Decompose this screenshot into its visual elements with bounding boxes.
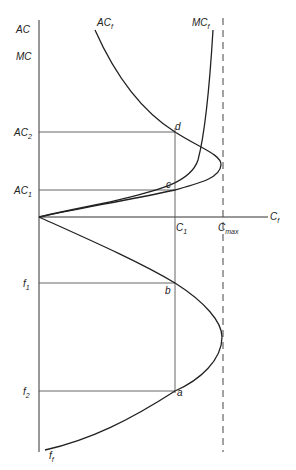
point-b-label: b	[165, 285, 171, 296]
y-axis-label-ac: AC	[15, 24, 31, 35]
f2-label: f2	[23, 386, 30, 399]
flow-curve-label: ff	[49, 450, 55, 463]
x-axis-label: Cf	[270, 211, 280, 224]
point-d-label: d	[175, 121, 181, 132]
ac1-label: AC1	[13, 185, 32, 198]
ac-curve-label: ACf	[96, 17, 114, 30]
y-axis-label-mc: MC	[16, 51, 32, 62]
point-c-label: c	[166, 179, 171, 190]
flow-curve	[39, 217, 222, 450]
f1-label: f1	[23, 278, 30, 291]
point-a-label: a	[177, 387, 183, 398]
cost-flow-diagram: AC MC Cf ACf MCf ff AC2 AC1 f1 f2 C1 Cma…	[0, 0, 296, 470]
cmax-label: Cmax	[218, 222, 239, 235]
ac2-label: AC2	[13, 127, 32, 140]
c1-label: C1	[176, 222, 187, 235]
average-cost-curve	[39, 30, 221, 217]
marginal-cost-curve	[39, 30, 213, 217]
mc-curve-label: MCf	[192, 17, 211, 30]
